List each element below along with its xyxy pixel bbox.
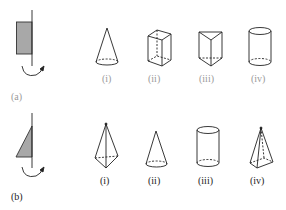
cylinder-solid (249, 28, 271, 66)
option-label: (ii) (148, 175, 160, 187)
cone-solid (146, 131, 167, 167)
option-label: (i) (100, 175, 109, 187)
pyramid-solid (250, 127, 273, 168)
option-label: (i) (102, 73, 111, 85)
rectangle-shape (17, 22, 33, 54)
option-label: (iii) (198, 175, 213, 187)
row-b (16, 113, 273, 177)
triangular-prism-solid (199, 32, 222, 66)
arrowhead-icon (40, 167, 44, 172)
option-label: (iv) (250, 175, 264, 187)
option-label: (ii) (148, 73, 160, 85)
option-label: (iii) (199, 73, 214, 85)
rotation-arrow-icon (22, 167, 43, 177)
cuboid-solid (148, 30, 171, 66)
row-b-label: (b) (11, 191, 23, 203)
cylinder-solid (197, 127, 219, 167)
arrowhead-icon (40, 66, 44, 71)
rotation-arrow-icon (22, 66, 43, 76)
row-a (17, 10, 272, 76)
row-a-label: (a) (11, 91, 22, 103)
option-label: (iv) (251, 73, 265, 85)
double-pyramid-solid (95, 123, 118, 168)
revolution-solids-diagram: (a) (i) (ii) (iii) (iv) (b) (i) (ii) (ii… (0, 0, 286, 210)
triangle-shape (16, 126, 32, 157)
cone-solid (96, 28, 118, 65)
